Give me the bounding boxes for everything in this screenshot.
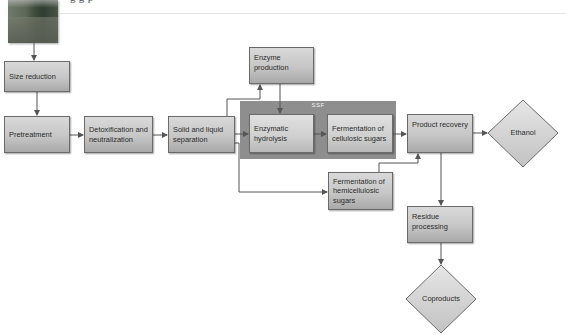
- node-detoxification-label: Detoxification and neutralization: [89, 125, 148, 144]
- node-detoxification: Detoxification and neutralization: [84, 116, 153, 153]
- node-ethanol-label: Ethanol: [487, 128, 559, 137]
- node-enzyme-production-label: Enzyme production: [254, 53, 309, 72]
- node-ethanol: Ethanol: [487, 99, 559, 168]
- node-fermentation-hemicellulosic: Fermentation of hemicellulosic sugars: [328, 172, 393, 210]
- node-fermentation-cellulosic: Fermentation of cellulosic sugars: [327, 114, 393, 153]
- node-fermentation-cellulosic-label: Fermentation of cellulosic sugars: [332, 124, 388, 143]
- node-size-reduction: Size reduction: [4, 61, 70, 92]
- node-residue-processing: Residue processing: [407, 206, 473, 243]
- node-enzymatic-hydrolysis: Enzymatic hydrolysis: [249, 114, 314, 153]
- node-solid-liquid-separation: Solid and liquid separation: [168, 116, 235, 153]
- node-residue-processing-label: Residue processing: [412, 212, 468, 231]
- node-fermentation-hemicellulosic-label: Fermentation of hemicellulosic sugars: [333, 177, 388, 206]
- node-coproducts-label: Coproducts: [405, 294, 477, 303]
- node-coproducts: Coproducts: [405, 264, 477, 334]
- node-enzyme-production: Enzyme production: [249, 47, 314, 84]
- node-size-reduction-label: Size reduction: [9, 72, 56, 82]
- node-product-recovery: Product recovery: [407, 114, 473, 153]
- node-pretreatment: Pretreatment: [4, 116, 70, 153]
- node-enzymatic-hydrolysis-label: Enzymatic hydrolysis: [254, 124, 309, 143]
- node-product-recovery-label: Product recovery: [412, 120, 468, 130]
- node-pretreatment-label: Pretreatment: [9, 130, 52, 140]
- node-solid-liquid-label: Solid and liquid separation: [173, 125, 230, 144]
